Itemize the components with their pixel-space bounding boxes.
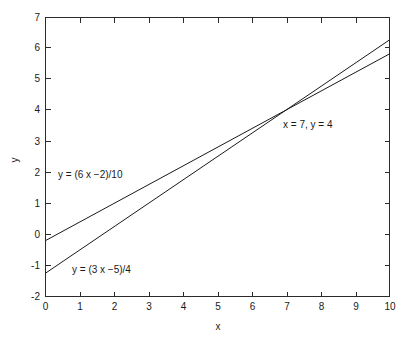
x-tick-label: 6 — [250, 301, 256, 312]
x-tick-label: 5 — [215, 301, 221, 312]
x-tick-label: 2 — [112, 301, 118, 312]
figure-canvas: 0 1 2 3 4 5 6 7 8 9 10 -2 -1 0 1 2 3 4 5… — [0, 0, 409, 341]
y-tick-label: -1 — [31, 260, 40, 271]
x-tick-label: 3 — [146, 301, 152, 312]
x-tick-label: 4 — [181, 301, 187, 312]
y-tick-label: 2 — [34, 167, 40, 178]
x-axis-label: x — [216, 321, 221, 332]
y-tick-label: 6 — [34, 42, 40, 53]
y-tick-label: 4 — [34, 104, 40, 115]
x-tick-label: 8 — [319, 301, 325, 312]
x-tick-label: 0 — [43, 301, 49, 312]
annotation-intersection-point: x = 7, y = 4 — [283, 119, 333, 130]
y-tick-labels: -2 -1 0 1 2 3 4 5 6 7 — [31, 12, 40, 302]
x-tick-label: 7 — [284, 301, 290, 312]
x-tick-label: 9 — [353, 301, 359, 312]
y-tick-label: -2 — [31, 291, 40, 302]
x-tick-labels: 0 1 2 3 4 5 6 7 8 9 10 — [43, 301, 396, 312]
y-tick-label: 5 — [34, 73, 40, 84]
y-axis-label: y — [9, 158, 20, 163]
y-tick-label: 0 — [34, 229, 40, 240]
x-tick-label: 1 — [77, 301, 83, 312]
annotation-lower-line-equation: y = (3 x −5)/4 — [72, 264, 131, 275]
y-tick-label: 3 — [34, 136, 40, 147]
y-tick-label: 7 — [34, 12, 40, 23]
y-tick-label: 1 — [34, 198, 40, 209]
x-tick-label: 10 — [384, 301, 396, 312]
line-chart: 0 1 2 3 4 5 6 7 8 9 10 -2 -1 0 1 2 3 4 5… — [0, 0, 409, 341]
annotation-upper-line-equation: y = (6 x −2)/10 — [58, 169, 123, 180]
